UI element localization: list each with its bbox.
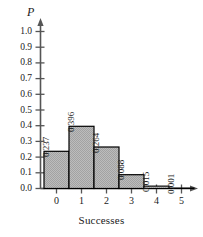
y-tick-label-0.8: 0.8 bbox=[8, 58, 32, 68]
bar-value-label-2: 0.264 bbox=[92, 132, 101, 152]
y-tick-label-0.2: 0.2 bbox=[8, 153, 32, 163]
probability-histogram-figure: P 1.0 0.9 0.8 0.7 0.6 0.5 0.4 0.3 0.2 0.… bbox=[0, 0, 203, 237]
x-tick-label-5: 5 bbox=[174, 196, 190, 206]
bar-value-label-4: 0.015 bbox=[142, 171, 151, 191]
x-tick-label-2: 2 bbox=[99, 196, 115, 206]
x-axis-title: Successes bbox=[0, 214, 203, 226]
bar-value-label-1: 0.396 bbox=[67, 111, 76, 131]
x-tick-label-1: 1 bbox=[74, 196, 90, 206]
y-tick-label-0.1: 0.1 bbox=[8, 168, 32, 178]
y-tick-label-0.4: 0.4 bbox=[8, 121, 32, 131]
y-axis bbox=[37, 18, 43, 189]
y-tick-label-0.6: 0.6 bbox=[8, 90, 32, 100]
x-tick-label-3: 3 bbox=[124, 196, 140, 206]
y-tick-label-0.9: 0.9 bbox=[8, 43, 32, 53]
x-tick-label-4: 4 bbox=[149, 196, 165, 206]
y-tick-label-0.5: 0.5 bbox=[8, 106, 32, 116]
y-axis-title: P bbox=[27, 6, 34, 18]
y-tick-label-0.0: 0.0 bbox=[8, 184, 32, 194]
bar-value-label-3: 0.088 bbox=[117, 160, 126, 180]
y-tick-label-0.7: 0.7 bbox=[8, 74, 32, 84]
y-tick-label-1.0: 1.0 bbox=[8, 27, 32, 37]
bar-value-label-0: 0.237 bbox=[42, 136, 51, 156]
bar-value-label-5: 0.001 bbox=[167, 173, 176, 193]
y-tick-label-0.3: 0.3 bbox=[8, 137, 32, 147]
x-tick-label-0: 0 bbox=[49, 196, 65, 206]
